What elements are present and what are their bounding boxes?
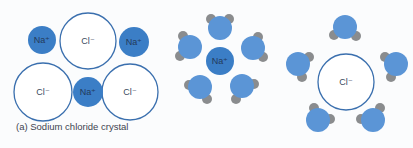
water-molecule — [356, 103, 385, 132]
ion-label: Na⁺ — [126, 37, 143, 47]
oxygen-atom — [306, 108, 330, 132]
hydrated-chloride-ion: Cl⁻ — [286, 15, 408, 132]
chloride-ion: Cl⁻ — [60, 13, 116, 69]
ion-label: Na⁺ — [34, 35, 51, 45]
chloride-ion: Cl⁻ — [14, 63, 72, 121]
sodium-chloride-crystal: Cl⁻Cl⁻Cl⁻Na⁺Na⁺Na⁺ — [14, 13, 158, 121]
chloride-ion: Cl⁻ — [102, 64, 158, 120]
water-molecule — [306, 103, 335, 132]
oxygen-atom — [208, 16, 232, 40]
chloride-ion: Cl⁻ — [318, 54, 374, 110]
ion-label: Na⁺ — [80, 87, 97, 97]
ion-label: Cl⁻ — [36, 87, 50, 97]
water-molecule — [241, 32, 268, 62]
oxygen-atom — [188, 75, 212, 99]
oxygen-atom — [333, 15, 357, 39]
ion-label: Na⁺ — [212, 56, 229, 66]
ion-label: Cl⁻ — [81, 36, 95, 46]
oxygen-atom — [361, 108, 385, 132]
water-molecule — [380, 52, 408, 82]
oxygen-atom — [384, 52, 408, 76]
water-molecule — [206, 14, 234, 40]
sodium-ion: Na⁺ — [28, 26, 56, 54]
sodium-ion: Na⁺ — [73, 77, 103, 107]
oxygen-atom — [286, 52, 310, 76]
water-molecule — [329, 15, 361, 41]
figure-caption: (a) Sodium chloride crystal — [16, 121, 128, 132]
water-molecule — [286, 52, 314, 82]
ion-label: Cl⁻ — [123, 87, 137, 97]
hydrated-sodium-ion: Na⁺ — [175, 14, 268, 104]
oxygen-atom — [230, 74, 254, 98]
ion-label: Cl⁻ — [339, 77, 353, 87]
oxygen-atom — [178, 35, 202, 59]
water-molecule — [175, 31, 202, 61]
water-molecule — [184, 75, 212, 104]
sodium-ion: Na⁺ — [206, 47, 234, 75]
oxygen-atom — [241, 36, 265, 60]
sodium-ion: Na⁺ — [119, 27, 149, 57]
water-molecule — [230, 74, 259, 104]
